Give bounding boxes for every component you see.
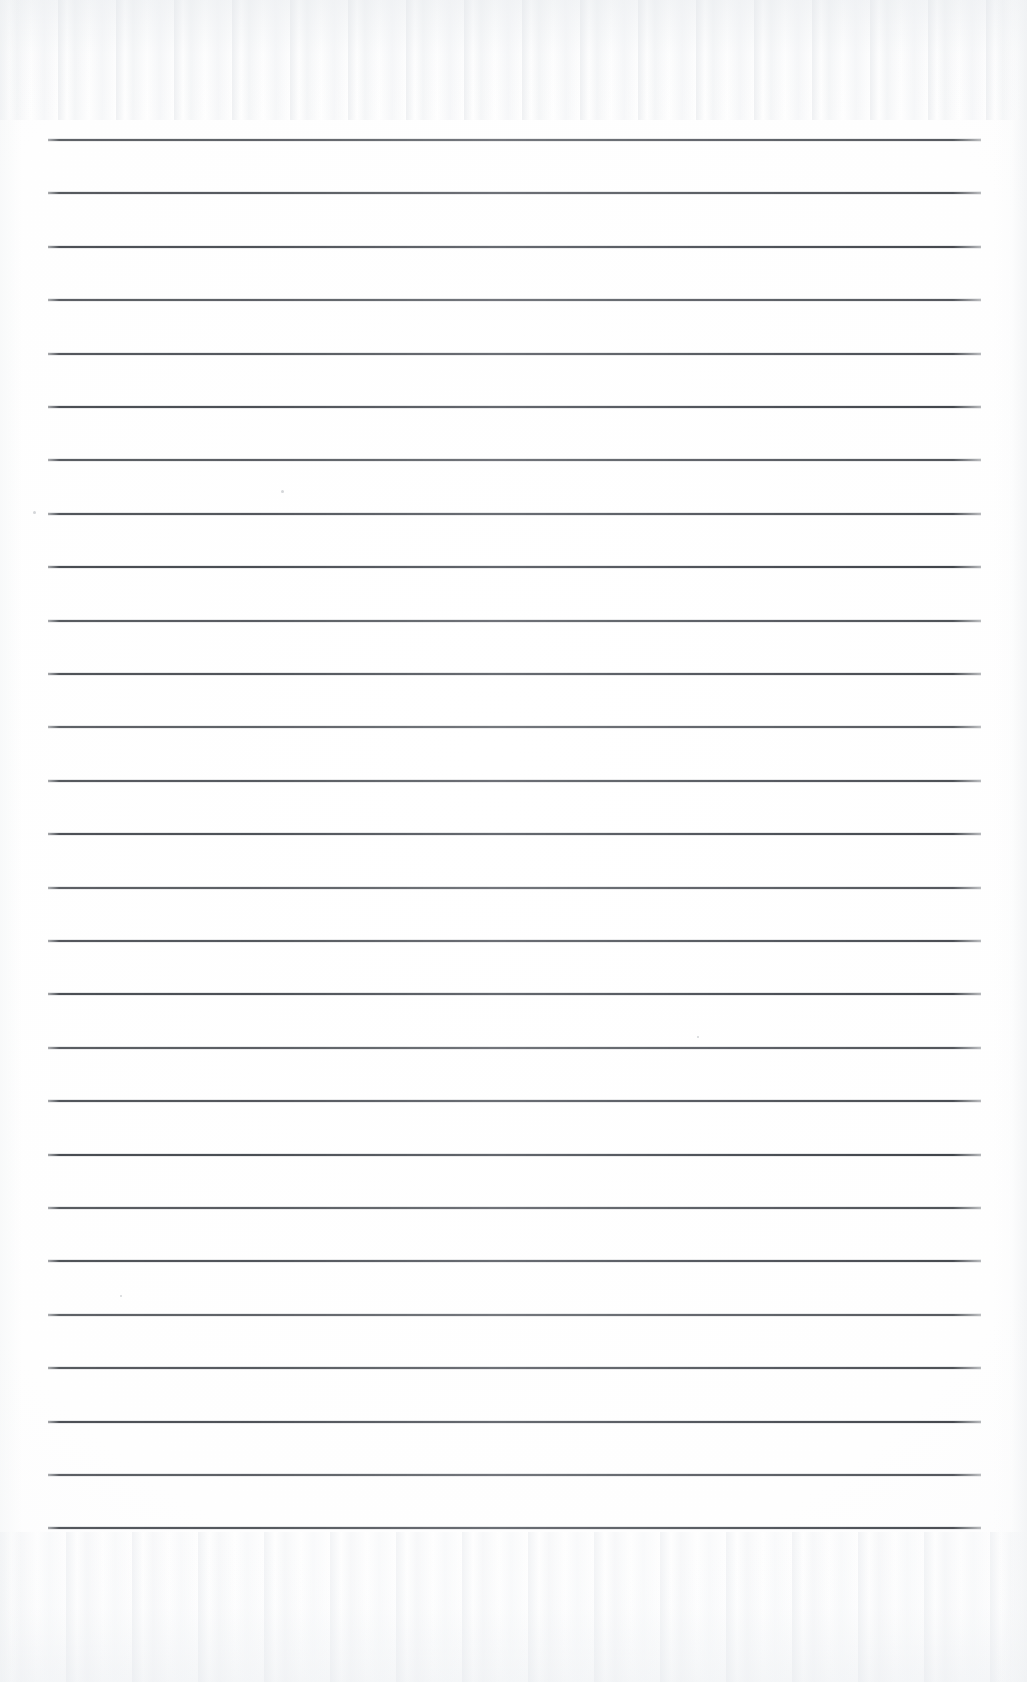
ruled-line [48, 246, 981, 248]
ruled-line [48, 299, 981, 301]
ruled-line [48, 1421, 981, 1423]
ruled-line [48, 1367, 981, 1369]
ruled-line [48, 1260, 981, 1262]
ruled-line [48, 1207, 981, 1209]
ruled-line [48, 459, 981, 461]
ruled-line [48, 353, 981, 355]
ruled-line [48, 993, 981, 995]
scanned-page [0, 0, 1027, 1682]
ruled-line [48, 1154, 981, 1156]
ruled-line [48, 940, 981, 942]
ruled-line [48, 566, 981, 568]
ruled-line [48, 139, 981, 141]
ruled-line [48, 887, 981, 889]
ruled-line [48, 1314, 981, 1316]
ruled-line [48, 513, 981, 515]
ruled-line [48, 1474, 981, 1476]
ruled-line [48, 1527, 981, 1529]
ruled-line [48, 780, 981, 782]
ruled-line [48, 1100, 981, 1102]
ruled-line [48, 673, 981, 675]
ruled-line [48, 726, 981, 728]
ruled-line [48, 1047, 981, 1049]
ruled-line [48, 833, 981, 835]
ruled-line [48, 620, 981, 622]
ruled-line-layer [0, 0, 1027, 1682]
ruled-line [48, 406, 981, 408]
ruled-line [48, 192, 981, 194]
